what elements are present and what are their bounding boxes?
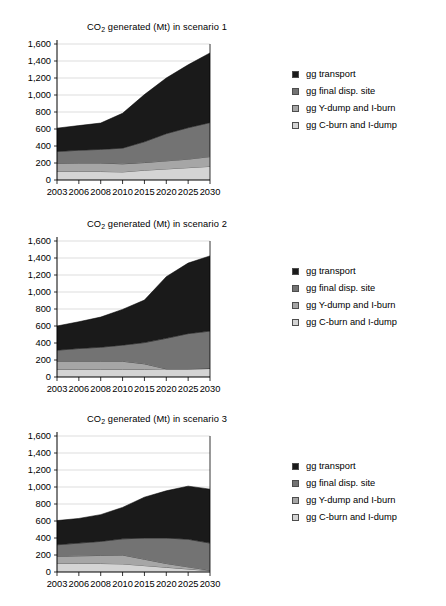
figure-root: CO2 generated (Mt) in scenario 1 0200400… (0, 0, 446, 606)
legend-item-c_burn_i_dump[interactable]: gg C-burn and I-dump (292, 314, 442, 331)
chart-title-scenario-3: CO2 generated (Mt) in scenario 3 (57, 414, 257, 424)
y-tick-label: 800 (35, 499, 51, 509)
legend-item-label: gg Y-dump and I-burn (306, 301, 395, 310)
legend-item-label: gg C-burn and I-dump (306, 513, 397, 522)
y-tick-label: 400 (35, 533, 51, 543)
y-tick-label: 1,600 (28, 431, 51, 441)
x-tick-label: 2020 (156, 579, 177, 589)
legend-item-final_disp_site[interactable]: gg final disp. site (292, 83, 442, 100)
x-tick-label: 2006 (69, 384, 90, 394)
legend-swatch-icon (292, 480, 299, 487)
legend-item-label: gg Y-dump and I-burn (306, 496, 395, 505)
chart-title-subscript: 2 (101, 223, 105, 230)
y-tick-label: 200 (35, 158, 51, 168)
legend-item-label: gg transport (306, 462, 356, 471)
legend-swatch-icon (292, 514, 299, 521)
x-tick-label: 2015 (134, 384, 155, 394)
legend-item-final_disp_site[interactable]: gg final disp. site (292, 475, 442, 492)
chart-title-rest: generated (Mt) in scenario 1 (105, 22, 227, 32)
x-tick-label: 2025 (178, 384, 199, 394)
legend-item-label: gg final disp. site (306, 87, 375, 96)
chart-title-subscript: 2 (101, 418, 105, 425)
y-tick-label: 1,000 (28, 287, 51, 297)
x-tick-label: 2008 (90, 187, 111, 197)
x-tick-label: 2025 (178, 579, 199, 589)
legend-item-label: gg final disp. site (306, 284, 375, 293)
chart-title-scenario-2: CO2 generated (Mt) in scenario 2 (57, 219, 257, 229)
x-tick-label: 2003 (47, 384, 68, 394)
x-tick-label: 2025 (178, 187, 199, 197)
x-tick-label: 2020 (156, 187, 177, 197)
chart-title-rest: generated (Mt) in scenario 3 (105, 414, 227, 424)
y-tick-label: 0 (46, 372, 51, 382)
y-tick-label: 1,600 (28, 39, 51, 49)
legend-swatch-icon (292, 268, 299, 275)
y-tick-label: 1,600 (28, 236, 51, 246)
legend-item-label: gg transport (306, 267, 356, 276)
legend-item-c_burn_i_dump[interactable]: gg C-burn and I-dump (292, 509, 442, 526)
x-tick-label: 2010 (112, 384, 133, 394)
legend-item-label: gg final disp. site (306, 479, 375, 488)
y-tick-label: 400 (35, 338, 51, 348)
legend-item-label: gg C-burn and I-dump (306, 121, 397, 130)
plot-area-scenario-2: 02004006008001,0001,2001,4001,6002003200… (0, 231, 260, 401)
y-tick-label: 0 (46, 567, 51, 577)
area-chart-svg-scenario-3: 02004006008001,0001,2001,4001,6002003200… (0, 426, 260, 596)
legend-item-transport[interactable]: gg transport (292, 458, 442, 475)
legend-swatch-icon (292, 71, 299, 78)
x-tick-label: 2030 (200, 187, 221, 197)
legend-item-c_burn_i_dump[interactable]: gg C-burn and I-dump (292, 117, 442, 134)
legend-swatch-icon (292, 122, 299, 129)
x-tick-label: 2030 (200, 384, 221, 394)
y-tick-label: 400 (35, 141, 51, 151)
x-tick-label: 2015 (134, 579, 155, 589)
y-tick-label: 1,400 (28, 448, 51, 458)
y-tick-label: 600 (35, 516, 51, 526)
y-tick-label: 1,200 (28, 270, 51, 280)
area-series (57, 486, 210, 545)
legend-swatch-icon (292, 497, 299, 504)
x-tick-label: 2006 (69, 187, 90, 197)
y-tick-label: 200 (35, 355, 51, 365)
area-chart-svg-scenario-1: 02004006008001,0001,2001,4001,6002003200… (0, 34, 260, 204)
legend-item-final_disp_site[interactable]: gg final disp. site (292, 280, 442, 297)
x-tick-label: 2003 (47, 579, 68, 589)
chart-panel-scenario-1: CO2 generated (Mt) in scenario 1 0200400… (0, 8, 446, 205)
chart-title-rest: generated (Mt) in scenario 2 (105, 219, 227, 229)
legend-swatch-icon (292, 285, 299, 292)
legend-swatch-icon (292, 463, 299, 470)
legend-item-y_dump_i_burn[interactable]: gg Y-dump and I-burn (292, 100, 442, 117)
chart-legend-scenario-3: gg transportgg final disp. sitegg Y-dump… (292, 458, 442, 526)
chart-title-subscript: 2 (101, 26, 105, 33)
y-tick-label: 600 (35, 321, 51, 331)
x-tick-label: 2010 (112, 579, 133, 589)
legend-item-label: gg Y-dump and I-burn (306, 104, 395, 113)
x-tick-label: 2010 (112, 187, 133, 197)
x-tick-label: 2008 (90, 384, 111, 394)
x-tick-label: 2020 (156, 384, 177, 394)
x-tick-label: 2008 (90, 579, 111, 589)
chart-title-co-text: CO (87, 219, 101, 229)
area-chart-svg-scenario-2: 02004006008001,0001,2001,4001,6002003200… (0, 231, 260, 401)
legend-item-transport[interactable]: gg transport (292, 66, 442, 83)
y-tick-label: 1,000 (28, 482, 51, 492)
y-tick-label: 1,000 (28, 90, 51, 100)
legend-item-label: gg C-burn and I-dump (306, 318, 397, 327)
legend-item-label: gg transport (306, 70, 356, 79)
y-tick-label: 1,400 (28, 56, 51, 66)
x-tick-label: 2030 (200, 579, 221, 589)
legend-item-y_dump_i_burn[interactable]: gg Y-dump and I-burn (292, 297, 442, 314)
y-tick-label: 800 (35, 304, 51, 314)
y-tick-label: 800 (35, 107, 51, 117)
legend-item-transport[interactable]: gg transport (292, 263, 442, 280)
chart-title-co-text: CO (87, 22, 101, 32)
legend-swatch-icon (292, 319, 299, 326)
chart-title-co-text: CO (87, 414, 101, 424)
x-tick-label: 2006 (69, 579, 90, 589)
chart-panel-scenario-3: CO2 generated (Mt) in scenario 3 0200400… (0, 400, 446, 597)
y-tick-label: 200 (35, 550, 51, 560)
y-tick-label: 1,200 (28, 465, 51, 475)
legend-item-y_dump_i_burn[interactable]: gg Y-dump and I-burn (292, 492, 442, 509)
chart-title-scenario-1: CO2 generated (Mt) in scenario 1 (57, 22, 257, 32)
legend-swatch-icon (292, 302, 299, 309)
